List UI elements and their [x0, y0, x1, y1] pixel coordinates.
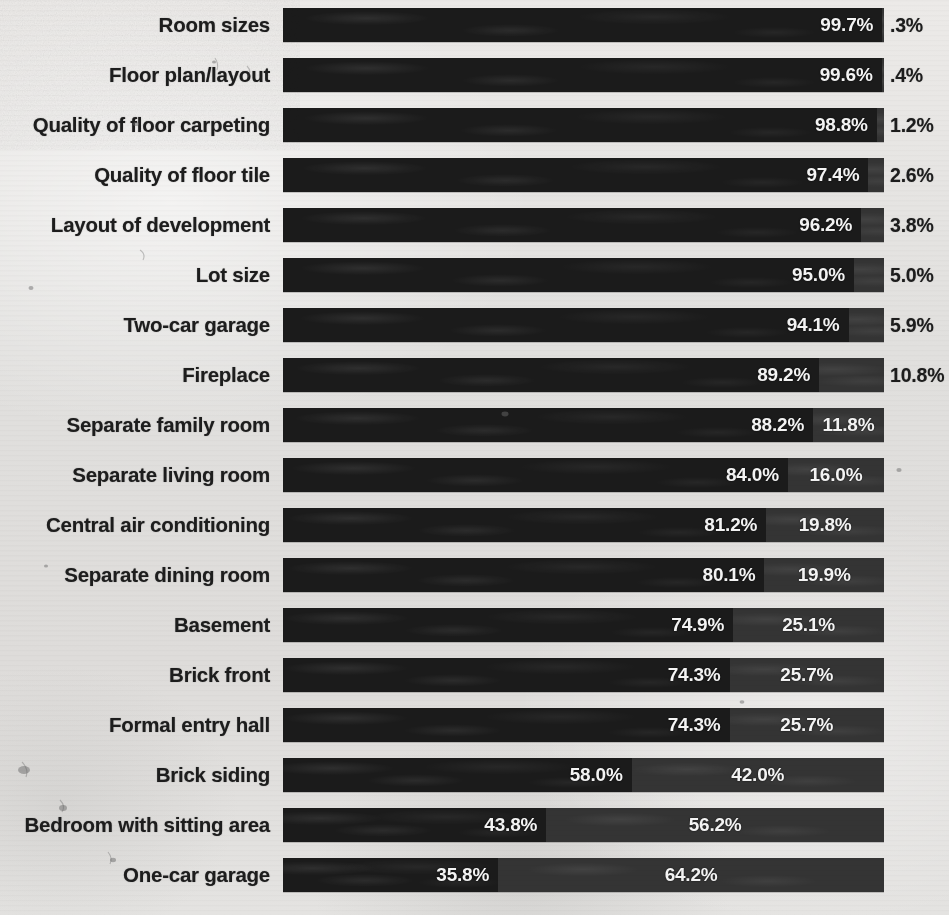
bar-segment-secondary: 64.2% [498, 858, 884, 892]
bar-segment-primary-value: 97.4% [806, 164, 868, 186]
bar-segment-secondary [849, 308, 884, 342]
bar-segment-primary: 58.0% [283, 758, 632, 792]
bar-segment-secondary-value: 5.0% [890, 258, 934, 292]
bar-row: Quality of floor carpeting98.8%1.2% [0, 108, 949, 142]
stacked-bar-track: 97.4% [283, 158, 884, 192]
bar-row: Formal entry hall74.3%25.7% [0, 708, 949, 742]
stacked-bar-track: 99.7% [283, 8, 884, 42]
bar-row-label: Brick front [169, 658, 270, 692]
bar-segment-primary: 89.2% [283, 358, 819, 392]
bar-row-label: Bedroom with sitting area [25, 808, 270, 842]
stacked-bar-track: 80.1%19.9% [283, 558, 884, 592]
bar-row-label: Quality of floor carpeting [33, 108, 270, 142]
stacked-bar-track: 88.2%11.8% [283, 408, 884, 442]
bar-segment-primary-value: 94.1% [787, 314, 849, 336]
bar-row: Lot size95.0%5.0% [0, 258, 949, 292]
bar-segment-secondary-value: 10.8% [890, 358, 944, 392]
bar-row-label: Fireplace [182, 358, 270, 392]
bar-segment-secondary-value: 1.2% [890, 108, 934, 142]
bar-segment-primary-value: 99.6% [820, 64, 882, 86]
stacked-bar-track: 95.0% [283, 258, 884, 292]
bar-row: Room sizes99.7%.3% [0, 8, 949, 42]
bar-segment-primary: 94.1% [283, 308, 849, 342]
bar-segment-secondary: 11.8% [813, 408, 884, 442]
bar-segment-primary-value: 35.8% [436, 864, 498, 886]
bar-segment-secondary: 25.7% [730, 658, 884, 692]
bar-segment-secondary-value: 25.7% [780, 714, 833, 736]
bar-segment-primary-value: 58.0% [570, 764, 632, 786]
bar-segment-secondary [868, 158, 884, 192]
bar-segment-secondary-value: 5.9% [890, 308, 934, 342]
bar-row-label: Central air conditioning [46, 508, 270, 542]
bar-segment-secondary-value: 42.0% [731, 764, 784, 786]
bar-segment-primary: 97.4% [283, 158, 868, 192]
stacked-bar-track: 74.9%25.1% [283, 608, 884, 642]
bar-row-label: Layout of development [51, 208, 270, 242]
stacked-bar-track: 94.1% [283, 308, 884, 342]
bar-segment-primary-value: 84.0% [726, 464, 788, 486]
bar-segment-secondary-value: 11.8% [823, 414, 875, 436]
bar-row-label: Brick siding [156, 758, 270, 792]
bar-segment-secondary-value: 25.1% [782, 614, 835, 636]
bar-segment-primary: 74.3% [283, 708, 730, 742]
bar-row: Separate living room84.0%16.0% [0, 458, 949, 492]
bar-segment-secondary-value: .4% [890, 58, 923, 92]
bar-segment-primary-value: 74.3% [668, 714, 730, 736]
bar-row-label: Floor plan/layout [109, 58, 270, 92]
bar-row: Basement74.9%25.1% [0, 608, 949, 642]
stacked-bar-chart: Room sizes99.7%.3%Floor plan/layout99.6%… [0, 0, 949, 915]
stacked-bar-track: 35.8%64.2% [283, 858, 884, 892]
bar-segment-secondary: 19.9% [764, 558, 884, 592]
stacked-bar-track: 74.3%25.7% [283, 658, 884, 692]
stacked-bar-track: 43.8%56.2% [283, 808, 884, 842]
bar-row: Separate dining room80.1%19.9% [0, 558, 949, 592]
stacked-bar-track: 98.8% [283, 108, 884, 142]
bar-row-label: Basement [174, 608, 270, 642]
bar-row: Floor plan/layout99.6%.4% [0, 58, 949, 92]
bar-segment-secondary [854, 258, 884, 292]
bar-row-label: Separate living room [72, 458, 270, 492]
stacked-bar-track: 89.2% [283, 358, 884, 392]
bar-row-label: Formal entry hall [109, 708, 270, 742]
bar-row: Bedroom with sitting area43.8%56.2% [0, 808, 949, 842]
bar-segment-secondary: 56.2% [546, 808, 884, 842]
stacked-bar-track: 84.0%16.0% [283, 458, 884, 492]
stacked-bar-track: 99.6% [283, 58, 884, 92]
bar-segment-primary: 43.8% [283, 808, 546, 842]
bar-segment-primary-value: 95.0% [792, 264, 854, 286]
bar-row-label: Lot size [196, 258, 270, 292]
bar-segment-secondary [882, 58, 884, 92]
bar-segment-primary-value: 43.8% [484, 814, 546, 836]
bar-segment-secondary-value: 56.2% [689, 814, 742, 836]
bar-segment-primary-value: 98.8% [815, 114, 877, 136]
stacked-bar-track: 58.0%42.0% [283, 758, 884, 792]
bar-row: One-car garage35.8%64.2% [0, 858, 949, 892]
bar-row: Two-car garage94.1%5.9% [0, 308, 949, 342]
bar-segment-primary: 99.7% [283, 8, 882, 42]
stacked-bar-track: 81.2%19.8% [283, 508, 884, 542]
bar-segment-secondary-value: 2.6% [890, 158, 934, 192]
bar-segment-secondary-value: 64.2% [665, 864, 718, 886]
bar-segment-secondary: 25.7% [730, 708, 884, 742]
bar-segment-primary: 80.1% [283, 558, 764, 592]
bar-segment-secondary [877, 108, 884, 142]
bar-row-label: Separate dining room [64, 558, 270, 592]
bar-segment-primary-value: 81.2% [704, 514, 766, 536]
bar-row: Central air conditioning81.2%19.8% [0, 508, 949, 542]
bar-row: Brick front74.3%25.7% [0, 658, 949, 692]
chart-rows-container: Room sizes99.7%.3%Floor plan/layout99.6%… [0, 0, 949, 915]
bar-segment-primary-value: 88.2% [751, 414, 813, 436]
bar-segment-primary: 99.6% [283, 58, 882, 92]
bar-segment-primary: 88.2% [283, 408, 813, 442]
bar-row-label: Room sizes [159, 8, 270, 42]
bar-segment-secondary: 19.8% [766, 508, 884, 542]
bar-row-label: Quality of floor tile [94, 158, 270, 192]
bar-segment-secondary [861, 208, 884, 242]
bar-segment-primary: 84.0% [283, 458, 788, 492]
bar-row-label: Separate family room [67, 408, 271, 442]
bar-segment-secondary-value: 16.0% [809, 464, 862, 486]
bar-segment-secondary-value: 3.8% [890, 208, 934, 242]
bar-segment-secondary-value: 19.8% [799, 514, 852, 536]
bar-segment-primary-value: 74.3% [668, 664, 730, 686]
bar-segment-secondary: 16.0% [788, 458, 884, 492]
